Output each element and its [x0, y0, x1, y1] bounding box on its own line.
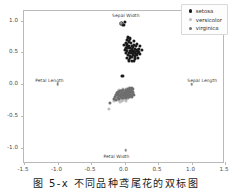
x-tick-mark [58, 162, 59, 165]
x-tick-mark [192, 162, 193, 165]
x-tick-label: 1.5 [220, 166, 229, 172]
feature-vector-point [125, 149, 128, 152]
legend-label-setosa: setosa [196, 8, 214, 14]
feature-vector-point [56, 83, 59, 86]
x-tick-label: 0.0 [119, 166, 128, 172]
figure-container: Sepal WidthPetal LengthSepal LengthPetal… [0, 0, 232, 188]
legend-item[interactable]: setosa [186, 8, 223, 14]
x-tick-mark [91, 162, 92, 165]
x-tick-mark [24, 162, 25, 165]
legend-marker-setosa [189, 9, 192, 12]
feature-vector-label: Petal Length [35, 77, 64, 82]
legend-marker-versicolor [189, 18, 192, 21]
x-tick-label: 1.0 [186, 166, 195, 172]
feature-vector-label: Petal Width [103, 153, 129, 158]
y-tick-label: -1.0 [7, 144, 18, 150]
x-tick-mark [158, 162, 159, 165]
feature-vector-point [190, 83, 193, 86]
feature-vector-label: Sepal Length [187, 77, 217, 82]
legend-item[interactable]: versicolor [186, 17, 223, 23]
x-tick-label: 0.5 [153, 166, 162, 172]
x-tick-label: -0.5 [85, 166, 96, 172]
legend-item[interactable]: virginica [186, 25, 223, 31]
feature-vector-point [120, 22, 123, 25]
feature-vector-label: Sepal Width [112, 13, 139, 18]
y-tick-label: 0.0 [9, 80, 18, 86]
y-tick-label: 1.0 [9, 17, 18, 23]
legend[interactable]: setosa versicolor virginica [181, 4, 229, 35]
y-tick-label: 0.5 [9, 48, 18, 54]
legend-marker-virginica [189, 27, 192, 30]
figure-caption: 图 5-x 不同品种鸢尾花的双标图 [0, 175, 232, 188]
x-tick-mark [225, 162, 226, 165]
x-tick-label: -1.0 [51, 166, 62, 172]
legend-label-virginica: virginica [196, 25, 219, 31]
y-tick-label: -0.5 [7, 112, 18, 118]
x-tick-label: -1.5 [18, 166, 29, 172]
x-tick-mark [125, 162, 126, 165]
legend-label-versicolor: versicolor [196, 17, 222, 23]
